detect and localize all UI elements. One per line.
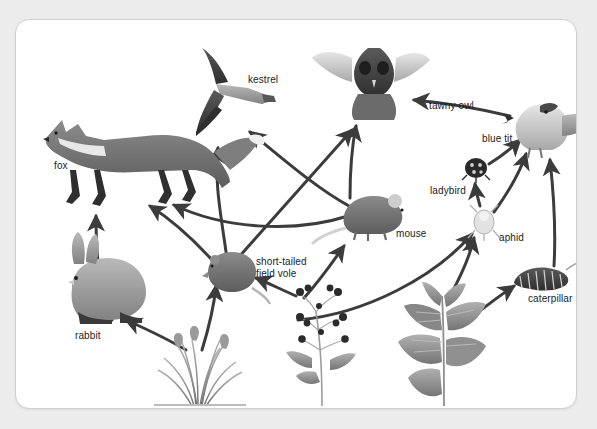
organism-art-blackberry — [286, 285, 356, 406]
arrow-field_vole-to-tawny_owl — [238, 130, 352, 258]
arrow-mouse-to-fox — [174, 205, 348, 227]
organism-art-blue-tit — [502, 103, 576, 158]
arrow-blackberry-to-aphid — [298, 234, 472, 320]
arrow-field_vole-to-fox — [150, 206, 212, 260]
label-mouse: mouse — [396, 228, 427, 240]
organism-art-kestrel — [196, 48, 276, 136]
arrow-aphid-to-blue_tit — [494, 154, 526, 212]
organism-art-rabbit — [68, 232, 146, 324]
arrow-mouse-to-kestrel — [250, 132, 349, 206]
organism-art-nettle — [398, 282, 486, 406]
arrow-mouse-to-tawny_owl — [350, 126, 356, 198]
label-rabbit: rabbit — [75, 330, 101, 342]
label-blue_tit: blue tit — [482, 133, 512, 145]
label-caterpillar: caterpillar — [528, 293, 572, 305]
organism-art-tawny-owl — [312, 48, 430, 120]
arrow-aphid-to-ladybird — [475, 184, 480, 206]
organism-art-grass — [154, 326, 246, 406]
label-ladybird: ladybird — [430, 185, 466, 197]
arrow-blackberry-to-field_vole — [256, 278, 296, 296]
organism-art-fox — [43, 120, 264, 206]
label-kestrel: kestrel — [248, 74, 278, 86]
organism-art-caterpillar — [514, 260, 576, 291]
arrow-caterpillar-to-blue_tit — [550, 160, 555, 266]
label-field_vole: short-tailed field vole — [256, 256, 307, 279]
organism-art-mouse — [312, 194, 404, 244]
label-tawny_owl: tawny owl — [429, 100, 474, 112]
arrow-grass-to-field_vole — [202, 286, 216, 350]
food-web-diagram: foxkestreltawny owlblue titladybirdmouse… — [0, 0, 597, 429]
label-aphid: aphid — [499, 232, 524, 244]
organism-art-ladybird — [462, 158, 490, 183]
label-fox: fox — [54, 160, 68, 172]
food-web-canvas — [16, 20, 576, 408]
diagram-card: foxkestreltawny owlblue titladybirdmouse… — [15, 19, 577, 409]
